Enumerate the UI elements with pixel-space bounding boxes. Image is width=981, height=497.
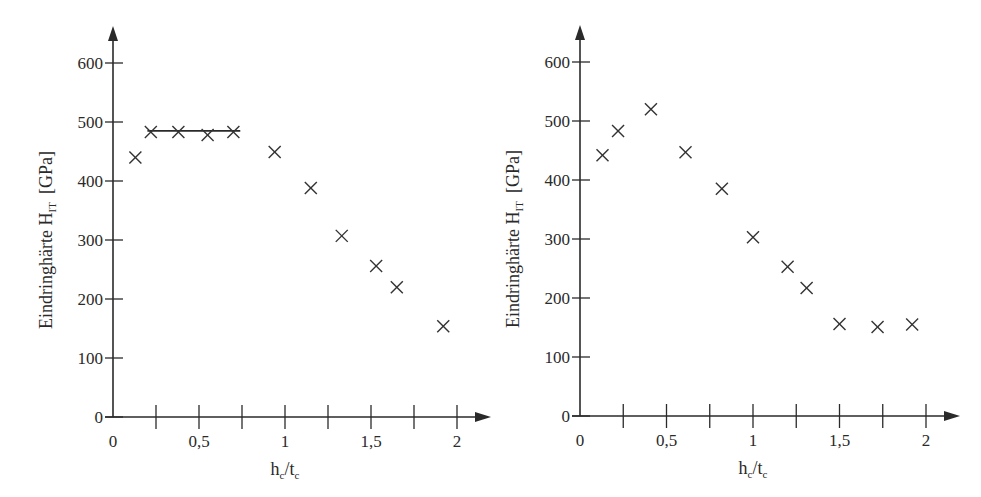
y-tick-label: 100	[545, 348, 571, 367]
data-point-x-marker	[680, 146, 692, 158]
y-axis-arrow-icon	[575, 25, 585, 40]
x-tick-label: 1,5	[360, 432, 381, 451]
data-point-x-marker	[782, 261, 794, 273]
data-point-x-marker	[645, 103, 657, 115]
data-point-x-marker	[596, 149, 608, 161]
x-tick-label: 1	[281, 432, 290, 451]
y-tick-label: 0	[95, 408, 104, 427]
y-tick-label: 600	[545, 53, 571, 72]
y-tick-label: 200	[78, 290, 104, 309]
y-tick-label: 300	[78, 231, 104, 250]
x-axis-label: hc/tc	[739, 458, 768, 480]
y-axis-arrow-icon	[108, 26, 118, 41]
y-tick-label: 300	[545, 230, 571, 249]
data-point-x-marker	[129, 151, 141, 163]
data-point-x-marker	[437, 320, 449, 332]
data-point-x-marker	[872, 321, 884, 333]
data-point-x-marker	[716, 183, 728, 195]
x-tick-label: 0,5	[656, 431, 677, 450]
data-point-x-marker	[370, 260, 382, 272]
y-tick-label: 100	[78, 349, 104, 368]
x-axis-arrow-icon	[475, 412, 491, 422]
data-point-x-marker	[336, 230, 348, 242]
y-tick-label: 500	[78, 113, 104, 132]
y-tick-label: 200	[545, 289, 571, 308]
y-tick-label: 500	[545, 112, 571, 131]
data-point-x-marker	[227, 126, 239, 138]
x-tick-label: 2	[922, 431, 931, 450]
data-point-x-marker	[801, 282, 813, 294]
y-tick-label: 400	[545, 171, 571, 190]
x-tick-label: 2	[453, 432, 462, 451]
y-tick-label: 600	[78, 54, 104, 73]
data-point-x-marker	[834, 318, 846, 330]
data-point-x-marker	[269, 146, 281, 158]
data-point-x-marker	[145, 126, 157, 138]
x-tick-label: 0	[576, 431, 585, 450]
data-point-x-marker	[391, 281, 403, 293]
x-tick-label: 0,5	[188, 432, 209, 451]
figure-canvas: 010020030040050060000,511,52hc/tcEindrin…	[0, 0, 981, 497]
x-tick-label: 1,5	[829, 431, 850, 450]
chart-right: 010020030040050060000,511,52hc/tcEindrin…	[503, 25, 960, 480]
x-axis-arrow-icon	[944, 411, 960, 421]
data-point-x-marker	[906, 319, 918, 331]
x-tick-label: 0	[109, 432, 118, 451]
y-tick-label: 0	[562, 407, 571, 426]
x-axis-label: hc/tc	[271, 459, 300, 481]
data-point-x-marker	[305, 182, 317, 194]
data-point-x-marker	[172, 126, 184, 138]
data-point-x-marker	[612, 125, 624, 137]
y-tick-label: 400	[78, 172, 104, 191]
chart-left: 010020030040050060000,511,52hc/tcEindrin…	[36, 26, 491, 481]
x-tick-label: 1	[749, 431, 758, 450]
y-axis-label: Eindringhärte HIT[GPa]	[503, 150, 525, 328]
data-point-x-marker	[747, 231, 759, 243]
y-axis-label: Eindringhärte HIT[GPa]	[36, 151, 58, 329]
